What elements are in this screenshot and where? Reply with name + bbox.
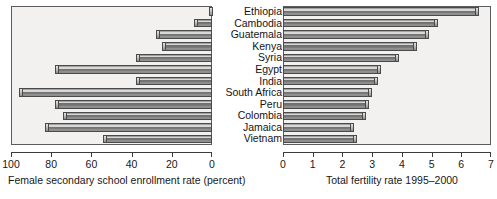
bar-cap [19, 88, 23, 97]
bar [283, 54, 399, 63]
axis-tick [51, 152, 52, 157]
left-axis-spine [11, 152, 212, 153]
bar-row [11, 87, 212, 99]
bar-cap [63, 112, 67, 121]
axis-tick [372, 152, 373, 157]
bar-cap [475, 7, 479, 16]
axis-tick-label: 6 [458, 158, 464, 171]
bar [283, 77, 378, 86]
bar [283, 88, 372, 97]
bar-cap [162, 42, 166, 51]
bar-cap [362, 112, 366, 121]
axis-tick [172, 152, 173, 157]
bar-cap [136, 77, 140, 86]
bar [283, 42, 417, 51]
category-label: Guatemala [213, 29, 282, 41]
bar-cap [103, 135, 107, 144]
bar [283, 65, 381, 74]
bar-cap [350, 123, 354, 132]
bar-row [283, 122, 491, 134]
bar-row [11, 41, 212, 53]
axis-tick-label: 0 [280, 158, 286, 171]
bar-row [283, 64, 491, 76]
bar [283, 112, 366, 121]
bar-row [283, 52, 491, 64]
bar [162, 42, 212, 51]
bar-row [283, 18, 491, 30]
bar [136, 77, 212, 86]
bar-cap [365, 100, 369, 109]
bar-cap [353, 135, 357, 144]
bar-cap [55, 65, 59, 74]
bar [283, 135, 357, 144]
bar-row [11, 18, 212, 30]
axis-tick-label: 4 [399, 158, 405, 171]
axis-tick-label: 40 [126, 158, 138, 171]
bar-row [11, 76, 212, 88]
bar [283, 30, 429, 39]
bar-row [11, 52, 212, 64]
bar-row [11, 29, 212, 41]
bar [63, 112, 212, 121]
bar-row [283, 87, 491, 99]
category-label: South Africa [213, 87, 282, 99]
axis-tick-label: 1 [310, 158, 316, 171]
bar-row [283, 99, 491, 111]
bar-cap [374, 77, 378, 86]
axis-tick-label: 20 [166, 158, 178, 171]
bar-row [283, 41, 491, 53]
bar-cap [434, 19, 438, 28]
bar [156, 30, 212, 39]
bar-cap [413, 42, 417, 51]
bar-row [11, 99, 212, 111]
left-bar-series [11, 6, 212, 145]
axis-tick [402, 152, 403, 157]
bar-row [11, 110, 212, 122]
category-label: Vietnam [213, 133, 282, 145]
axis-tick-label: 60 [86, 158, 98, 171]
axis-tick [313, 152, 314, 157]
right-chart-panel: 01234567 [283, 6, 491, 152]
left-chart-panel: 100806040200 [11, 6, 212, 152]
bar [19, 88, 212, 97]
axis-tick-label: 5 [429, 158, 435, 171]
bar-cap [136, 54, 140, 63]
axis-tick-label: 0 [209, 158, 215, 171]
bar [283, 123, 354, 132]
left-x-tick-labels: 100806040200 [11, 158, 212, 171]
bar-row [11, 64, 212, 76]
axis-tick-label: 7 [488, 158, 494, 171]
axis-tick [91, 152, 92, 157]
axis-tick [132, 152, 133, 157]
bar-cap [425, 30, 429, 39]
bar-row [283, 6, 491, 18]
bar [103, 135, 212, 144]
bar-row [11, 133, 212, 145]
bar [283, 19, 438, 28]
bar-cap [156, 30, 160, 39]
right-x-tick-labels: 01234567 [283, 158, 491, 171]
axis-tick [11, 152, 12, 157]
category-label: Ethiopia [213, 6, 282, 18]
axis-tick-label: 100 [2, 158, 20, 171]
bar-row [11, 6, 212, 18]
bar [209, 7, 212, 16]
axis-tick-label: 80 [45, 158, 57, 171]
bar-row [283, 133, 491, 145]
category-label: Egypt [213, 64, 282, 76]
bar [283, 100, 369, 109]
bar-cap [368, 88, 372, 97]
bar-row [283, 110, 491, 122]
right-x-axis-title: Total fertility rate 1995–2000 [326, 173, 458, 187]
bar [283, 7, 479, 16]
bar-cap [45, 123, 49, 132]
axis-tick [432, 152, 433, 157]
axis-tick [490, 152, 491, 157]
axis-tick-label: 2 [340, 158, 346, 171]
bar [45, 123, 212, 132]
bar [55, 100, 212, 109]
bar-cap [395, 54, 399, 63]
right-axis-spine [283, 152, 491, 153]
axis-tick-label: 3 [369, 158, 375, 171]
bar-row [283, 76, 491, 88]
